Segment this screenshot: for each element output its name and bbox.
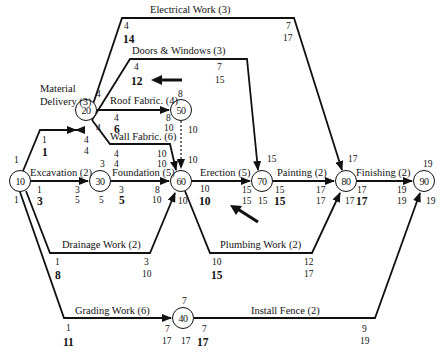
label-finishing: Finishing (2) <box>356 168 411 179</box>
node-70: 70 <box>251 170 273 192</box>
num-electrical-es: 4 <box>124 22 129 32</box>
num-node90-top: 19 <box>423 160 433 170</box>
num-node70-bottom: 15 <box>258 197 268 207</box>
num-plumbing-tf: 15 <box>211 270 223 282</box>
label-excavation: Excavation (2) <box>30 168 92 179</box>
num-drainage-lf: 10 <box>142 270 152 280</box>
annotation-arrowhead-doors <box>151 75 162 85</box>
num-finishing-tf: 17 <box>356 196 368 208</box>
num-node30-bottom: 5 <box>99 196 104 206</box>
num-wall-lf: 10 <box>157 160 167 170</box>
label-erection: Erection (5) <box>200 168 250 179</box>
label-foundation: Foundation (5) <box>112 168 175 179</box>
num-erection-ef: 15 <box>242 186 252 196</box>
num-node20-top: 4 <box>96 90 101 100</box>
num-material-tf: 1 <box>42 147 48 159</box>
label-install-fence: Install Fence (2) <box>251 306 320 317</box>
num-doors-tf: 12 <box>131 76 143 88</box>
edge-grading <box>20 192 171 318</box>
node-30: 30 <box>89 170 111 192</box>
label-material-1: Material <box>40 84 76 95</box>
num-foundation-lf: 10 <box>152 196 162 206</box>
num-node90-bottom: 19 <box>426 197 436 207</box>
num-painting-ef: 17 <box>316 186 326 196</box>
num-electrical-lf: 17 <box>283 34 293 44</box>
num-grading-es: 1 <box>66 324 71 334</box>
num-dummy-es: 10 <box>188 126 198 136</box>
num-node40-bottom: 17 <box>181 337 191 347</box>
num-roof-lf: 10 <box>164 124 174 134</box>
network-diagram: 10 20 30 40 50 60 70 80 90 Electrical Wo… <box>0 0 441 359</box>
label-doors-windows: Doors & Windows (3) <box>132 46 226 57</box>
num-fence-tf: 17 <box>197 337 209 349</box>
num-wall-tf: 4 <box>114 160 119 170</box>
num-erection-es: 10 <box>200 185 210 195</box>
label-electrical-work: Electrical Work (3) <box>150 5 231 16</box>
num-material-es: 1 <box>42 136 47 146</box>
num-doors-lf: 15 <box>215 76 225 86</box>
label-painting: Painting (2) <box>277 168 327 179</box>
node-10: 10 <box>9 170 31 192</box>
num-material-lf: 4 <box>84 147 89 157</box>
num-painting-lf: 17 <box>316 197 326 207</box>
edge-install-fence <box>194 193 420 318</box>
num-foundation-tf: 5 <box>119 195 125 207</box>
num-erection-lf: 15 <box>242 197 252 207</box>
num-erection-tf: 10 <box>199 196 211 208</box>
node-80: 80 <box>335 170 357 192</box>
num-grading-lf: 17 <box>162 337 172 347</box>
num-plumbing-lf: 17 <box>304 270 314 280</box>
num-plumbing-es: 10 <box>212 258 222 268</box>
num-finishing-lf: 19 <box>397 197 407 207</box>
num-drainage-tf: 8 <box>55 270 61 282</box>
node-40: 40 <box>172 307 194 329</box>
label-material-2: Delivery (3) <box>40 97 92 108</box>
num-node50-top: 8 <box>178 90 183 100</box>
num-doors-ef: 7 <box>217 63 222 73</box>
node-90: 90 <box>413 170 435 192</box>
num-drainage-ef: 3 <box>144 258 149 268</box>
num-roof-tf: 6 <box>114 124 120 136</box>
num-node30-top: 3 <box>100 160 105 170</box>
annotation-arrow-erection <box>236 208 258 222</box>
num-node80-bottom: 17 <box>345 197 355 207</box>
num-excavation-tf: 3 <box>37 196 43 208</box>
num-finishing-ef: 19 <box>397 186 407 196</box>
num-doors-es: 4 <box>134 63 139 73</box>
num-fence-ef: 9 <box>362 325 367 335</box>
label-drainage-work: Drainage Work (2) <box>62 240 141 251</box>
num-material-ef: 4 <box>84 136 89 146</box>
label-roof-fabric: Roof Fabric. (4) <box>110 96 178 107</box>
num-fence-es: 7 <box>202 325 207 335</box>
num-node60-bottom: 10 <box>178 197 188 207</box>
num-drainage-es: 1 <box>55 258 60 268</box>
num-node10-bottom: 1 <box>14 196 19 206</box>
num-painting-tf: 15 <box>274 196 286 208</box>
label-plumbing-work: Plumbing Work (2) <box>220 240 301 251</box>
num-node10-top: 1 <box>14 156 19 166</box>
num-electrical-ef: 7 <box>286 22 291 32</box>
num-node60-top: 10 <box>188 156 198 166</box>
num-excavation-lf: 5 <box>75 196 80 206</box>
label-grading-work: Grading Work (6) <box>75 306 150 317</box>
num-node80-top: 17 <box>348 155 358 165</box>
num-plumbing-ef: 12 <box>304 258 314 268</box>
num-electrical-tf: 14 <box>123 34 135 46</box>
num-grading-tf: 11 <box>63 337 74 349</box>
num-node20-bottom: 4 <box>96 124 101 134</box>
edge-material-delivery <box>23 130 78 171</box>
num-node70-top: 15 <box>267 155 277 165</box>
num-grading-ef: 7 <box>165 325 170 335</box>
num-node40-top: 7 <box>182 297 187 307</box>
num-fence-lf: 19 <box>360 337 370 347</box>
